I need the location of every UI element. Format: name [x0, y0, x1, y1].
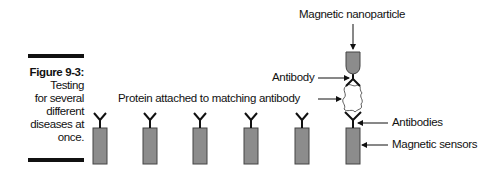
label-magnetic-sensors: Magnetic sensors	[392, 138, 477, 150]
top-antibody-icon	[346, 74, 360, 86]
sensor-2	[143, 113, 157, 164]
label-protein: Protein attached to matching antibody	[118, 92, 300, 104]
antibody-icon	[94, 113, 106, 128]
sensor-4	[244, 113, 258, 164]
label-magnetic-nanoparticle: Magnetic nanoparticle	[299, 8, 405, 20]
antibody-icon	[345, 112, 361, 128]
antibody-icon	[194, 113, 206, 128]
sensor-5	[295, 113, 309, 164]
antibody-icon	[245, 113, 257, 128]
label-antibodies: Antibodies	[392, 116, 443, 128]
sensor-6	[345, 112, 361, 164]
label-antibody: Antibody	[272, 71, 314, 83]
sensor-3	[193, 113, 207, 164]
nanoparticle-icon	[346, 52, 360, 74]
protein-icon	[343, 85, 363, 112]
antibody-icon	[296, 113, 308, 128]
sensor-1	[93, 113, 107, 164]
antibody-icon	[144, 113, 156, 128]
